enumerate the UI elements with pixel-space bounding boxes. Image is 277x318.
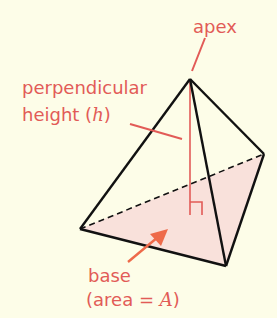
height-variable: h — [92, 104, 104, 125]
base-label-line2: (area = A) — [86, 289, 180, 310]
base-label-line1: base — [88, 265, 131, 286]
area-variable: A — [158, 289, 173, 310]
height-label-line2: height (h) — [22, 104, 111, 125]
pyramid-diagram: apex perpendicular height (h) base (area… — [0, 0, 277, 318]
height-label-line1: perpendicular — [22, 77, 148, 98]
apex-label: apex — [193, 16, 237, 37]
base-face — [80, 154, 264, 266]
apex-pointer — [192, 38, 205, 71]
